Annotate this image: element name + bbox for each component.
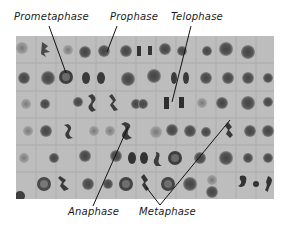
label-telophase: Telophase <box>171 11 223 22</box>
leader-line-prophase <box>107 26 117 52</box>
leader-line-metaphase-right <box>160 120 230 205</box>
leader-line-telophase <box>172 26 191 102</box>
mitosis-figure: Prometaphase Prophase Telophase Anaphase… <box>0 0 287 228</box>
label-prophase: Prophase <box>110 11 158 22</box>
label-anaphase: Anaphase <box>68 206 119 217</box>
leader-line-metaphase-left <box>146 187 160 205</box>
leader-line-prometaphase <box>49 26 66 73</box>
label-prometaphase: Prometaphase <box>14 11 89 22</box>
leader-lines <box>0 0 287 228</box>
leader-line-anaphase <box>93 127 128 206</box>
label-metaphase: Metaphase <box>139 206 196 217</box>
